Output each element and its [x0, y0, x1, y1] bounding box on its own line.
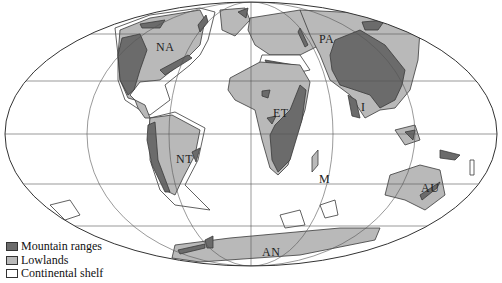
legend-item-shelf: Continental shelf	[6, 267, 103, 281]
legend-item-mountain: Mountain ranges	[6, 240, 103, 254]
region-label-pa: PA	[319, 32, 334, 47]
madagascar	[312, 150, 318, 172]
legend-item-lowland: Lowlands	[6, 254, 103, 268]
lowland-swatch	[6, 256, 18, 265]
region-label-et: ET	[273, 106, 289, 121]
shelf-swatch	[6, 269, 18, 278]
legend: Mountain ranges Lowlands Continental she…	[6, 240, 103, 281]
continents	[50, 8, 474, 262]
legend-label: Continental shelf	[21, 266, 103, 281]
region-label-m: M	[319, 172, 330, 187]
region-label-i: I	[361, 100, 366, 115]
region-label-nt: NT	[176, 152, 193, 167]
region-label-na: NA	[156, 40, 174, 55]
mountain-swatch	[6, 242, 18, 251]
region-label-an: AN	[262, 245, 280, 260]
region-label-au: AU	[421, 181, 439, 196]
